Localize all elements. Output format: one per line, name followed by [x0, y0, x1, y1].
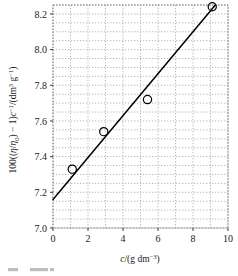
- y-tick-label: 8.0: [35, 44, 48, 55]
- caption-glyph-2: [30, 268, 48, 271]
- caption-glyph-1: [8, 268, 18, 271]
- y-axis-title-unit-open: /(dm: [8, 87, 19, 106]
- y-tick-label: 7.0: [35, 223, 48, 234]
- y-axis-title-unit-gsup: −1: [7, 70, 14, 77]
- scatter-plot: 0246810 7.07.27.47.67.88.08.2 c/(g dm−3)…: [0, 0, 238, 276]
- x-tick-label: 6: [156, 233, 161, 244]
- x-tick-label: 2: [86, 233, 91, 244]
- x-axis-tick-labels: 0246810: [51, 233, 234, 244]
- data-point-marker: [100, 128, 108, 136]
- y-axis-title: 100((η/η0) − 1)c−1/(dm3 g−1): [7, 67, 20, 174]
- x-tick-label: 10: [223, 233, 233, 244]
- y-axis-title-unit-close: ): [8, 67, 19, 70]
- data-point-marker: [143, 95, 151, 103]
- figure-container: 0246810 7.07.27.47.67.88.08.2 c/(g dm−3)…: [0, 0, 238, 276]
- y-axis-tick-labels: 7.07.27.47.67.88.08.2: [35, 9, 48, 234]
- x-tick-label: 4: [121, 233, 126, 244]
- data-point-marker: [208, 3, 216, 11]
- y-axis-title-c-sup: −1: [7, 105, 14, 112]
- y-tick-label: 7.8: [35, 80, 48, 91]
- data-point-marker: [68, 165, 76, 173]
- figure-caption: [8, 268, 54, 271]
- x-tick-label: 8: [191, 233, 196, 244]
- y-axis-title-prefix: 100((: [8, 153, 19, 174]
- y-tick-label: 7.6: [35, 116, 48, 127]
- x-tick-label: 0: [51, 233, 56, 244]
- y-axis-ticks: [50, 14, 53, 228]
- y-tick-label: 7.4: [35, 151, 48, 162]
- y-tick-label: 8.2: [35, 9, 48, 20]
- y-tick-label: 7.2: [35, 187, 48, 198]
- x-axis-title-close: ): [157, 254, 160, 265]
- caption-glyph-3: [50, 268, 54, 271]
- x-axis-title-unit: /(g dm: [124, 254, 150, 265]
- y-axis-title-mid: ) − 1): [8, 116, 19, 137]
- x-axis-title: c/(g dm−3): [120, 253, 159, 265]
